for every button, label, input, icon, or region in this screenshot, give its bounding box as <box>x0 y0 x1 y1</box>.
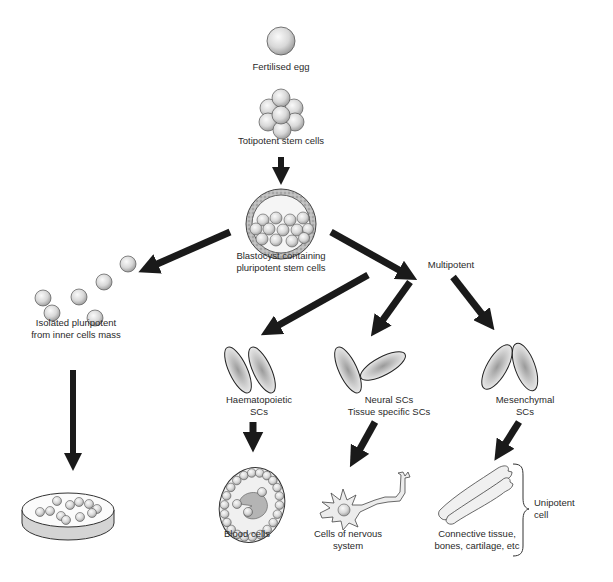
red-blood-cell <box>220 510 229 519</box>
red-blood-cell <box>240 471 249 480</box>
neural-label-line2: Tissue specific SCs <box>348 406 431 418</box>
nervous-label-line1: Cells of nervous <box>314 528 382 540</box>
fertilised-egg-icon <box>267 27 295 55</box>
red-blood-cell <box>222 492 231 501</box>
arrow-to-nervous <box>355 422 375 458</box>
arrow-to-neural <box>377 282 410 328</box>
red-blood-cell <box>220 501 229 510</box>
isolated-label-line2: from inner cells mass <box>31 329 121 341</box>
arrow-to-multipotent <box>331 232 408 275</box>
connective-label-line1: Connective tissue, <box>438 528 516 540</box>
mesenchymal-cells-icon <box>476 340 543 394</box>
totipotent-label: Totipotent stem cells <box>238 135 324 147</box>
multipotent-label: Multipotent <box>428 259 474 271</box>
mesenchymal-label-line2: SCs <box>516 406 534 418</box>
blastocyst-label-line2: pluripotent stem cells <box>236 262 325 274</box>
red-blood-cell <box>275 501 284 510</box>
blastocyst-label-line1: Blastocyst containing <box>236 250 325 262</box>
culture-dish-icon <box>22 493 114 540</box>
neural-cells-icon <box>329 344 409 397</box>
haematopoietic-label-line2: SCs <box>250 406 268 418</box>
bone-icon <box>439 466 513 524</box>
red-blood-cell <box>247 469 256 478</box>
red-blood-cell <box>227 483 236 492</box>
connective-label-line2: bones, cartilage, etc <box>434 540 519 552</box>
diagram-canvas: Fertilised egg Totipotent stem cells Bla… <box>0 0 613 582</box>
mesenchymal-label-line1: Mesenchymal <box>496 394 555 406</box>
nervous-label-line2: system <box>333 540 363 552</box>
totipotent-cells-icon <box>259 89 304 139</box>
unipotent-label-line1: Unipotent <box>534 497 575 509</box>
haematopoietic-label-line1: Haematopoietic <box>226 394 292 406</box>
red-blood-cell <box>269 518 278 527</box>
blastocyst-icon <box>246 189 316 259</box>
isolated-label-line1: Isolated pluripotent <box>36 317 116 329</box>
arrow-to-mesenchymal <box>453 277 488 322</box>
fertilised-egg-label: Fertilised egg <box>252 61 309 73</box>
neuron-icon <box>320 472 410 530</box>
blood-cells-label: Blood cells <box>224 528 270 540</box>
arrow-to-connective <box>500 422 519 452</box>
red-blood-cell <box>273 483 282 492</box>
arrow-to-haematopoietic <box>270 275 368 330</box>
haematopoietic-cells-icon <box>219 344 280 397</box>
red-blood-cell <box>273 510 282 519</box>
isolated-cells-icon <box>35 256 136 326</box>
unipotent-label-line2: cell <box>534 509 548 521</box>
red-blood-cell <box>275 492 284 501</box>
arrow-to-isolated <box>148 232 230 268</box>
neural-label-line1: Neural SCs <box>365 394 414 406</box>
red-blood-cell <box>223 518 232 527</box>
diagram-graphics <box>0 0 613 582</box>
